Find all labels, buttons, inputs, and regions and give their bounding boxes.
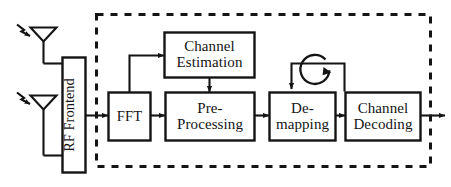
block-channel-estimation[interactable] (165, 33, 255, 78)
antenna-upper (31, 28, 57, 64)
antenna-lower (31, 96, 57, 156)
block-diagram-canvas: RF Frontend FFT Channel Estimation Pre- … (0, 0, 451, 187)
link-fft-input-tap-to-channel-estimation (130, 56, 165, 93)
iterative-loop-icon (300, 55, 331, 84)
rf-wave-icon-upper (17, 25, 30, 37)
block-pre-processing[interactable] (166, 93, 255, 141)
block-de-mapping[interactable] (270, 93, 336, 141)
block-channel-decoding[interactable] (346, 93, 421, 141)
block-fft[interactable] (109, 93, 151, 141)
block-label-rf-frontend: RF Frontend (59, 60, 79, 170)
baseband-processing-boundary (97, 15, 431, 167)
rf-wave-icon-lower (17, 93, 30, 105)
